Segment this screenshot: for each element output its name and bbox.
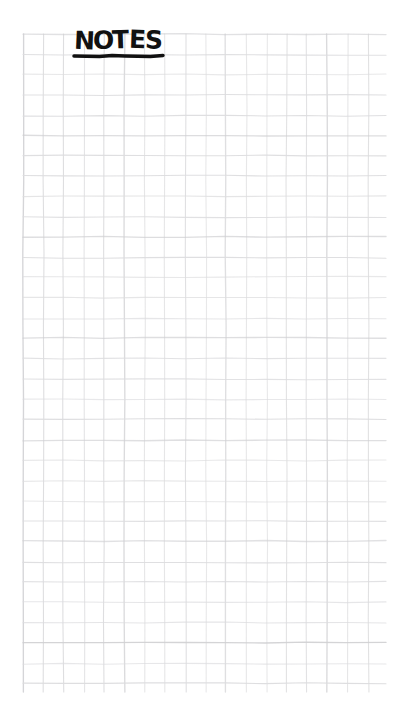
grid-line-horizontal [23, 562, 386, 563]
page-title-svg: NOTES [70, 6, 180, 48]
grid-line-horizontal [23, 683, 386, 684]
grid-lines-svg [0, 0, 405, 723]
grid-line-vertical [225, 34, 226, 692]
page-title-letter: S [145, 25, 164, 55]
graph-paper-grid [0, 0, 405, 723]
grid-line-horizontal [23, 581, 386, 582]
grid-line-horizontal [23, 257, 386, 258]
page-title-letter: T [111, 25, 130, 55]
grid-line-horizontal [23, 74, 386, 75]
page-title-underline [74, 55, 163, 56]
grid-line-vertical [206, 34, 207, 692]
page-title-letters: NOTES [73, 25, 164, 56]
grid-line-horizontal [23, 541, 386, 542]
grid-line-vertical [43, 34, 44, 692]
grid-line-vertical [84, 34, 85, 692]
grid-line-horizontal [23, 358, 386, 359]
grid-line-horizontal [23, 217, 386, 218]
grid-line-vertical [185, 34, 186, 692]
grid-line-horizontal [23, 236, 386, 237]
grid-line-vertical [124, 34, 125, 692]
grid-line-horizontal [23, 481, 386, 482]
grid-line-horizontal [23, 460, 386, 461]
grid-line-vertical [327, 34, 328, 692]
grid-line-vertical [23, 34, 24, 692]
grid-line-vertical [286, 34, 287, 692]
grid-line-vertical [347, 34, 348, 692]
grid-line-horizontal [23, 642, 386, 643]
grid-line-horizontal [23, 196, 386, 197]
grid-line-horizontal [23, 521, 386, 522]
notepad-page: NOTES [0, 0, 405, 723]
grid-line-horizontal [23, 318, 386, 319]
grid-line-vertical [144, 34, 145, 692]
grid-line-horizontal [23, 622, 386, 623]
grid-line-vertical [164, 34, 165, 692]
grid-line-horizontal [23, 337, 386, 338]
grid-line-vertical [267, 34, 268, 692]
grid-line-horizontal [23, 399, 386, 400]
grid-line-horizontal [23, 663, 386, 664]
grid-line-vertical [306, 34, 307, 692]
grid-line-vertical [368, 34, 369, 692]
grid-line-horizontal [23, 501, 386, 502]
grid-line-horizontal [23, 155, 386, 156]
grid-line-horizontal [23, 276, 386, 277]
grid-line-horizontal [23, 115, 386, 116]
grid-line-horizontal [23, 297, 386, 298]
grid-line-horizontal [23, 95, 386, 96]
grid-line-horizontal [23, 379, 386, 380]
grid-line-horizontal [23, 175, 386, 176]
grid-line-horizontal [23, 419, 386, 420]
grid-line-vertical [103, 34, 104, 692]
grid-line-horizontal [23, 440, 386, 441]
grid-line-vertical [63, 34, 64, 692]
grid-line-horizontal [23, 135, 386, 136]
grid-line-vertical [246, 34, 247, 692]
grid-line-horizontal [23, 602, 386, 603]
page-title: NOTES [70, 6, 180, 48]
